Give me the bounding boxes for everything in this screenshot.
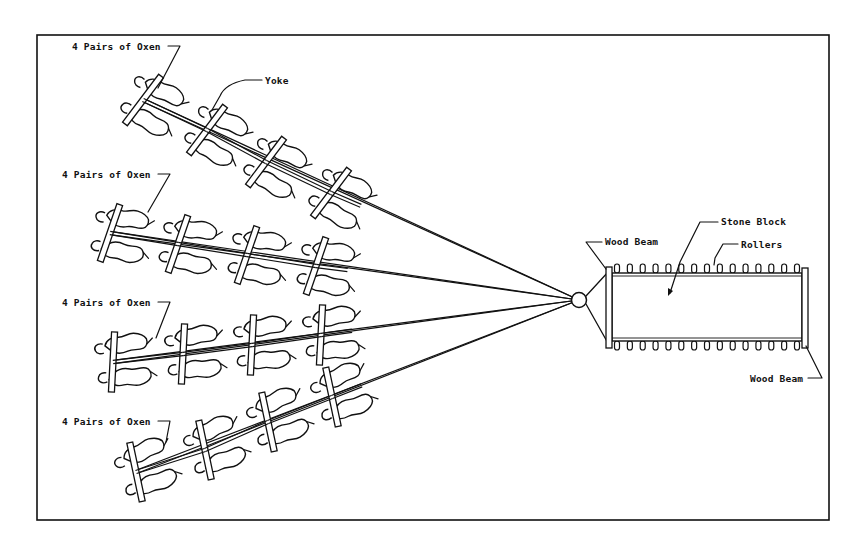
label-oxen-team: 4 Pairs of Oxen <box>72 41 161 52</box>
ox-hauling-diagram: 4 Pairs of Oxen4 Pairs of Oxen4 Pairs of… <box>0 0 861 554</box>
stone-block <box>612 273 802 341</box>
roller <box>795 341 800 350</box>
roller <box>743 341 748 350</box>
roller <box>756 264 761 273</box>
roller <box>717 264 722 273</box>
roller <box>640 264 645 273</box>
label-oxen-team: 4 Pairs of Oxen <box>62 297 151 308</box>
hitch-ring <box>572 293 587 308</box>
label-oxen-team: 4 Pairs of Oxen <box>62 169 151 180</box>
roller <box>705 341 710 350</box>
ox-pair <box>93 327 158 394</box>
roller <box>743 264 748 273</box>
roller <box>782 341 787 350</box>
roller <box>666 341 671 350</box>
oxen-team <box>89 201 362 303</box>
label-wood-beam-top: Wood Beam <box>605 236 658 247</box>
roller <box>730 341 735 350</box>
oxen-team <box>115 66 382 239</box>
roller <box>795 264 800 273</box>
roller <box>756 341 761 350</box>
roller <box>653 264 658 273</box>
roller <box>666 264 671 273</box>
roller <box>653 341 658 350</box>
ox-pair <box>178 406 255 484</box>
label-oxen-team: 4 Pairs of Oxen <box>62 416 151 427</box>
label-rollers: Rollers <box>741 239 782 250</box>
wood-beam-rear <box>802 268 808 348</box>
roller <box>615 341 620 350</box>
rollers-bottom <box>615 341 800 350</box>
rollers-top <box>615 264 800 273</box>
roller <box>627 264 632 273</box>
roller <box>705 264 710 273</box>
roller <box>679 341 684 350</box>
roller <box>717 341 722 350</box>
roller <box>640 341 645 350</box>
ox-pair <box>115 66 194 146</box>
stone-sled <box>606 264 808 350</box>
roller <box>730 264 735 273</box>
roller <box>782 264 787 273</box>
ox-pair <box>89 201 156 270</box>
roller <box>627 341 632 350</box>
ox-pair <box>303 159 382 239</box>
roller <box>615 264 620 273</box>
label-wood-beam-bottom: Wood Beam <box>750 373 803 384</box>
roller <box>769 341 774 350</box>
roller <box>769 264 774 273</box>
roller <box>692 264 697 273</box>
ox-pair <box>238 128 317 208</box>
wood-beam-front <box>606 267 612 348</box>
ox-pair <box>109 428 186 506</box>
oxen-teams <box>89 66 382 506</box>
label-yoke: Yoke <box>265 75 289 86</box>
hitch-assembly <box>572 271 610 345</box>
roller <box>692 341 697 350</box>
label-stone-block: Stone Block <box>721 216 786 227</box>
